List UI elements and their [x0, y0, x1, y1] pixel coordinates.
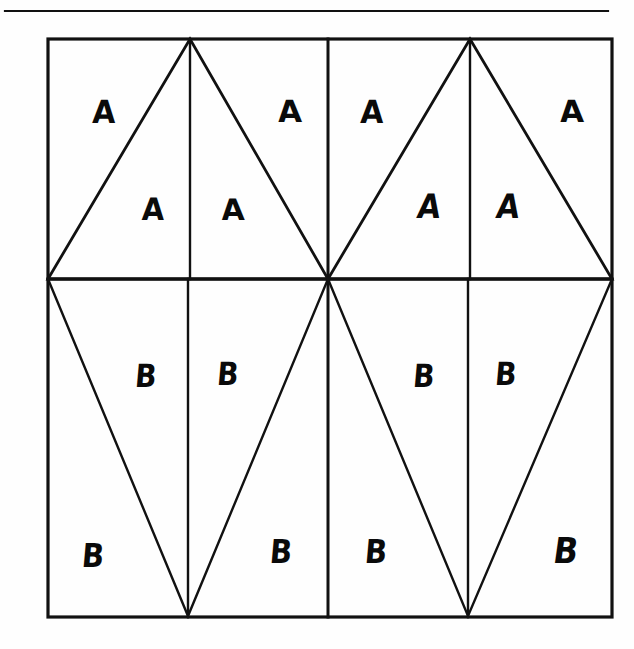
region-label-lower-outer-right-1: B — [363, 537, 388, 570]
region-label-upper-inner-left-2: A — [221, 195, 245, 225]
region-label-lower-inner-left-2: B — [216, 359, 240, 391]
region-label-upper-outer-left-2: A — [278, 98, 303, 129]
region-label-lower-inner-left-1: B — [134, 361, 158, 393]
region-label-lower-outer-right-2: B — [551, 533, 580, 569]
region-label-upper-inner-right-2: A — [494, 191, 522, 225]
region-label-lower-outer-left-1: B — [80, 541, 105, 574]
region-label-upper-inner-left-1: A — [141, 195, 165, 226]
region-label-lower-outer-left-2: B — [268, 537, 293, 570]
region-label-upper-outer-right-2: A — [560, 98, 585, 129]
region-label-lower-inner-right-2: B — [494, 359, 518, 391]
region-label-lower-inner-right-1: B — [412, 361, 436, 393]
region-label-upper-inner-right-1: A — [415, 191, 443, 225]
outer-frame-rect — [48, 39, 612, 617]
figure-root: AAAAAAAABBBBBBBB — [0, 0, 634, 649]
upper-triangle-left — [48, 39, 328, 279]
region-label-upper-outer-right-1: A — [360, 97, 384, 129]
region-label-upper-outer-left-1: A — [92, 97, 116, 129]
